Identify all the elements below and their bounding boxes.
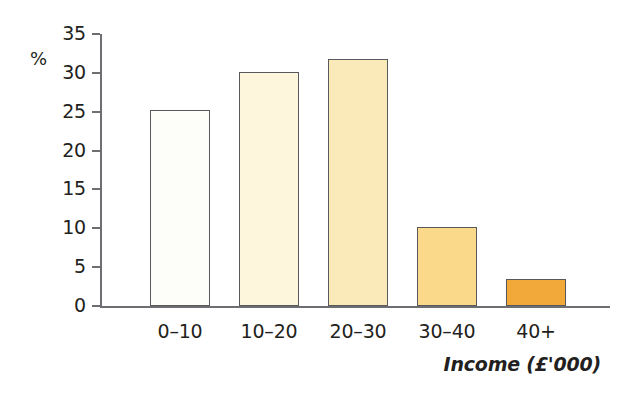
y-tick <box>92 188 100 190</box>
x-axis-line <box>100 306 610 308</box>
y-tick <box>92 266 100 268</box>
y-tick-label: 0 <box>36 296 86 315</box>
bar-chart: % 05101520253035 0–1010–2020–3030–4040+ … <box>0 0 639 401</box>
y-tick <box>92 33 100 35</box>
bar-40+[interactable] <box>506 279 566 306</box>
bar-30-40[interactable] <box>417 227 477 306</box>
y-tick-label: 20 <box>36 141 86 160</box>
bar-20-30[interactable] <box>328 59 388 306</box>
bar-0-10[interactable] <box>150 110 210 306</box>
y-tick-label: 5 <box>36 257 86 276</box>
y-tick <box>92 111 100 113</box>
y-tick-label: 35 <box>36 24 86 43</box>
y-tick <box>92 150 100 152</box>
y-tick <box>92 72 100 74</box>
y-tick-label: 10 <box>36 218 86 237</box>
y-tick-label: 15 <box>36 179 86 198</box>
y-tick <box>92 227 100 229</box>
bar-10-20[interactable] <box>239 72 299 306</box>
x-category-label: 40+ <box>476 322 596 341</box>
y-tick <box>92 305 100 307</box>
x-axis-title: Income (£'000) <box>0 355 601 374</box>
plot-area <box>102 34 610 306</box>
y-tick-label: 30 <box>36 63 86 82</box>
y-tick-label: 25 <box>36 102 86 121</box>
